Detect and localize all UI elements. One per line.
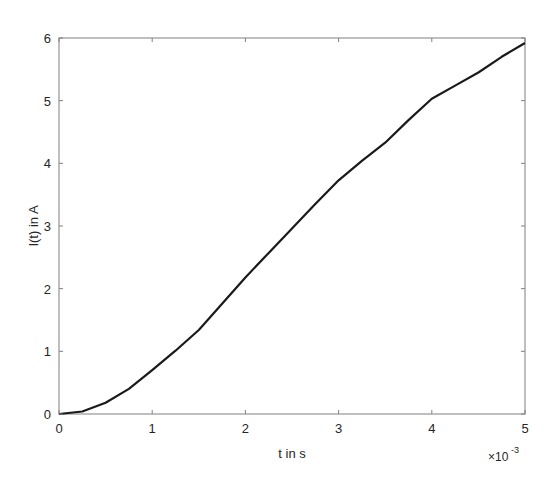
line-chart: 012345 0123456 t in s I(t) in A ×10 -3 <box>0 0 555 485</box>
y-tick-label: 4 <box>44 156 51 171</box>
y-tick-label: 2 <box>44 282 51 297</box>
y-axis-label: I(t) in A <box>26 205 41 247</box>
x-tick-label: 5 <box>521 421 528 436</box>
x-axis-ticks: 012345 <box>55 38 528 436</box>
y-axis-ticks: 0123456 <box>44 31 525 422</box>
axes-box <box>59 38 525 414</box>
x-tick-label: 3 <box>335 421 342 436</box>
x-axis-label: t in s <box>278 446 306 461</box>
x-tick-label: 4 <box>428 421 435 436</box>
series-line <box>59 43 525 414</box>
x-axis-exponent: ×10 -3 <box>488 445 519 464</box>
plot-area <box>59 38 525 414</box>
x-tick-label: 2 <box>242 421 249 436</box>
exponent-base: ×10 <box>488 450 509 464</box>
y-tick-label: 6 <box>44 31 51 46</box>
x-tick-label: 0 <box>55 421 62 436</box>
y-tick-label: 1 <box>44 344 51 359</box>
y-tick-label: 3 <box>44 219 51 234</box>
x-tick-label: 1 <box>149 421 156 436</box>
y-tick-label: 0 <box>44 407 51 422</box>
y-tick-label: 5 <box>44 94 51 109</box>
exponent-power: -3 <box>511 445 519 455</box>
